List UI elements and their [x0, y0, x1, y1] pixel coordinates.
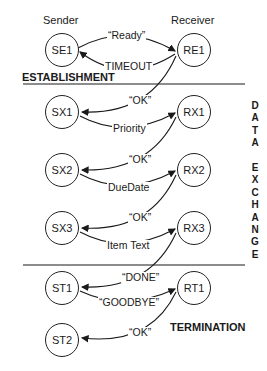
edge-label-priority: Priority [112, 123, 147, 134]
edge-label-ok-1: “OK” [128, 95, 152, 106]
node-st1: ST1 [45, 271, 79, 305]
edge-label-goodbye: “GOODBYE” [98, 297, 160, 308]
node-rx1: RX1 [177, 95, 211, 129]
edge-label-ok-4: “OK” [128, 327, 152, 338]
node-re1: RE1 [177, 33, 211, 67]
node-rt1: RT1 [177, 271, 211, 305]
edge-label-done: “DONE” [121, 272, 160, 283]
node-se1: SE1 [45, 33, 79, 67]
node-rx3: RX3 [177, 211, 211, 245]
node-sx3: SX3 [45, 211, 79, 245]
edge-label-timeout: TIMEOUT [104, 61, 153, 72]
node-sx2: SX2 [45, 153, 79, 187]
node-sx1: SX1 [45, 95, 79, 129]
edge-label-ready: “Ready” [107, 30, 146, 41]
edge-label-ok-2: “OK” [128, 154, 152, 165]
section-data-exchange: D A T A E X C H A N G E [249, 100, 261, 261]
node-rx2: RX2 [177, 153, 211, 187]
edge-label-ok-3: “OK” [128, 212, 152, 223]
receiver-header: Receiver [171, 15, 214, 26]
section-termination: TERMINATION [170, 322, 246, 333]
sender-header: Sender [43, 15, 78, 26]
edge-label-duedate: DueDate [107, 182, 150, 193]
edge-label-item-text: Item Text [106, 240, 150, 251]
section-establishment: ESTABLISHMENT [22, 72, 115, 83]
node-st2: ST2 [45, 323, 79, 357]
